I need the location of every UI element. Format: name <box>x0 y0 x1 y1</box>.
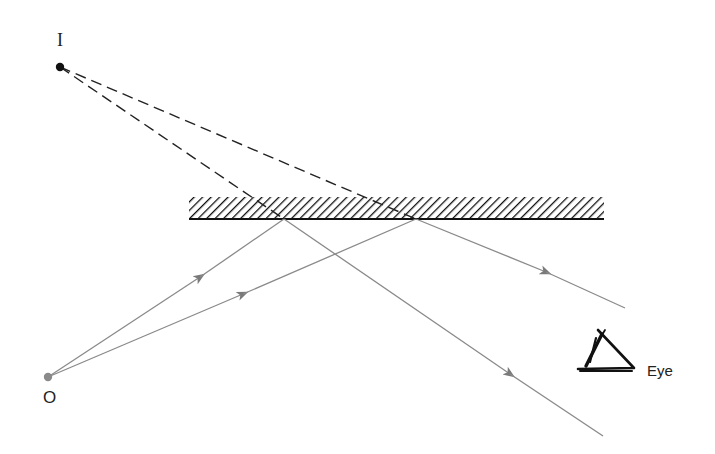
dashed-line-to-reflection-2 <box>60 67 416 219</box>
object-point-dot <box>44 373 52 381</box>
reflected-rays <box>284 219 625 436</box>
incident-rays <box>48 219 416 377</box>
reflected-ray-1-a <box>284 219 510 374</box>
image-point-dot <box>56 63 64 71</box>
dashed-line-to-reflection-1 <box>60 67 284 219</box>
plane-mirror <box>189 197 604 219</box>
incident-ray-1-a <box>48 277 200 377</box>
reflected-ray-2-a <box>416 219 546 272</box>
mirror-reflection-diagram <box>0 0 715 454</box>
virtual-ray-extensions <box>60 67 416 219</box>
eye-label: Eye <box>647 362 673 379</box>
incident-ray-1-b <box>200 219 284 277</box>
incident-ray-2-b <box>243 219 416 294</box>
object-point-label: O <box>43 388 56 408</box>
reflected-ray-1-b <box>510 374 603 436</box>
incident-ray-2-a <box>48 294 243 377</box>
eye-icon <box>578 330 634 371</box>
reflected-ray-2-b <box>546 272 625 308</box>
image-point-label: I <box>57 30 63 51</box>
mirror-hatching <box>189 197 604 218</box>
